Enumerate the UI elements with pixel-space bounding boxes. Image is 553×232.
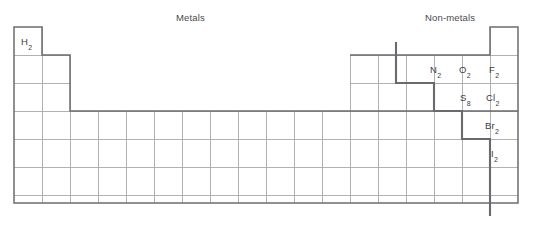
- element-chlorine-symbol: Cl: [486, 92, 495, 103]
- element-iodine: I2: [491, 148, 498, 159]
- element-sulfur: S8: [460, 92, 470, 103]
- periodic-table-grid: [0, 0, 553, 232]
- element-hydrogen: H2: [21, 36, 32, 47]
- element-oxygen: O2: [459, 64, 471, 75]
- label-nonmetals: Non-metals: [425, 12, 475, 23]
- element-sulfur-subscript: 8: [467, 100, 471, 107]
- element-hydrogen-symbol: H: [21, 36, 28, 47]
- element-bromine-symbol: Br: [485, 120, 495, 131]
- label-metals: Metals: [176, 12, 205, 23]
- element-nitrogen-subscript: 2: [437, 72, 441, 79]
- grid-lines: [14, 27, 518, 203]
- element-fluorine-subscript: 2: [495, 72, 499, 79]
- element-nitrogen-symbol: N: [430, 64, 437, 75]
- element-sulfur-symbol: S: [460, 92, 466, 103]
- element-fluorine: F2: [489, 64, 499, 75]
- element-hydrogen-subscript: 2: [28, 44, 32, 51]
- element-bromine-subscript: 2: [495, 128, 499, 135]
- metal-nonmetal-staircase: [396, 42, 490, 216]
- element-iodine-subscript: 2: [494, 156, 498, 163]
- element-oxygen-subscript: 2: [467, 72, 471, 79]
- element-oxygen-symbol: O: [459, 64, 467, 75]
- periodic-table-diagram: Metals Non-metals H2 N2 O2 F2 S8 Cl2 Br2…: [0, 0, 553, 232]
- element-nitrogen: N2: [430, 64, 441, 75]
- element-chlorine: Cl2: [486, 92, 499, 103]
- element-chlorine-subscript: 2: [495, 100, 499, 107]
- element-bromine: Br2: [485, 120, 499, 131]
